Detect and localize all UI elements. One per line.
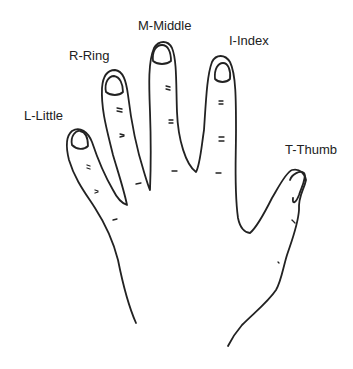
label-index-finger: I-Index xyxy=(229,33,269,48)
label-middle-finger: M-Middle xyxy=(138,18,191,33)
hand-diagram: L-Little R-Ring M-Middle I-Index T-Thumb xyxy=(0,0,353,369)
label-little-finger: L-Little xyxy=(24,108,63,123)
label-thumb: T-Thumb xyxy=(285,142,337,157)
hand-outline-drawing xyxy=(0,0,353,369)
label-ring-finger: R-Ring xyxy=(69,48,109,63)
